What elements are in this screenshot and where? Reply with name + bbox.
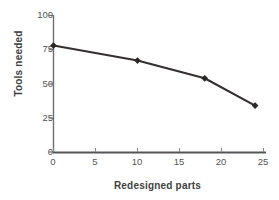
x-axis-ticks [54,148,264,152]
y-axis-ticks [49,16,53,153]
data-line [54,46,256,106]
data-markers [50,42,258,109]
data-point [50,42,57,49]
data-point [134,57,141,64]
line-chart: Tools needed Redesigned parts 100 75 50 … [0,0,279,200]
plot-area [0,0,279,200]
